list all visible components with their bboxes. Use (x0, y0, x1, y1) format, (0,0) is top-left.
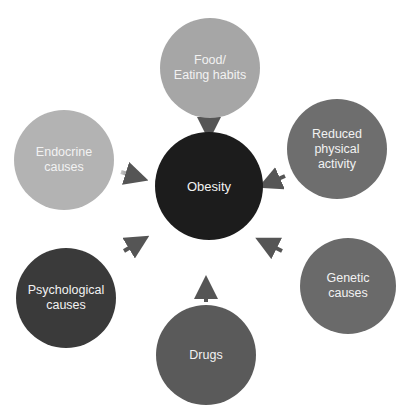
node-food-eating-habits: Food/ Eating habits (160, 18, 260, 118)
node-reduced-physical-activity: Reduced physical activity (287, 99, 387, 199)
node-obesity-label: Obesity (187, 179, 231, 194)
node-psychological-causes: Psychological causes (16, 248, 116, 348)
arrow-psychological-to-obesity (124, 242, 139, 251)
node-endocrine-causes: Endocrine causes (14, 110, 114, 210)
arrow-genetic-to-obesity (266, 243, 282, 251)
node-psychological-label: Psychological causes (28, 283, 104, 313)
node-endocrine-label: Endocrine causes (36, 145, 92, 175)
arrow-activity-to-obesity (269, 176, 285, 183)
node-genetic-causes: Genetic causes (300, 238, 396, 334)
node-obesity: Obesity (155, 132, 263, 240)
obesity-causes-diagram: Obesity Food/ Eating habits Reduced phys… (0, 0, 415, 406)
node-drugs-label: Drugs (189, 348, 222, 363)
node-drugs: Drugs (156, 305, 256, 405)
node-activity-label: Reduced physical activity (312, 127, 362, 172)
node-food-label: Food/ Eating habits (174, 53, 246, 83)
node-genetic-label: Genetic causes (326, 271, 369, 301)
arrow-endocrine-to-obesity (121, 172, 137, 177)
